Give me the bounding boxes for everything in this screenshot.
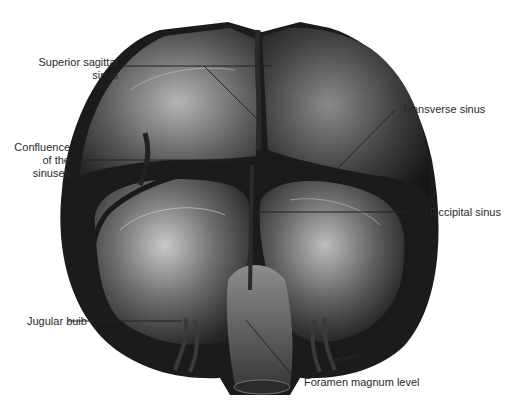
label-transverse-sinus: Transverse sinus bbox=[402, 103, 485, 116]
label-foramen-magnum-level: Foramen magnum level bbox=[304, 376, 420, 389]
label-jugular-bulb: Jugular buib bbox=[27, 315, 87, 328]
label-superior-sagittal-sinus: Superior sagittal sinus bbox=[8, 56, 118, 82]
anatomical-illustration: John Sumner Superior sagittal sinus Conf… bbox=[0, 0, 515, 406]
label-occipital-sinus: Occipital sinus bbox=[430, 206, 501, 219]
superior-sagittal-sinus bbox=[257, 30, 259, 150]
occipital-sinus bbox=[250, 165, 252, 290]
label-confluence-of-sinuses: Confluence of the sinuses bbox=[8, 141, 70, 180]
